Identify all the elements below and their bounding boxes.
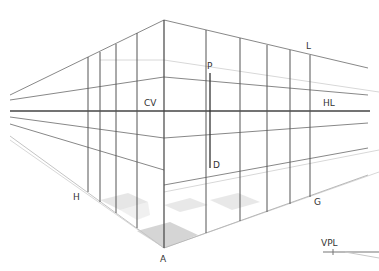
- label-h: H: [73, 193, 80, 202]
- label-cv: CV: [144, 99, 156, 108]
- right-converging-lines: [164, 20, 368, 248]
- label-hl: HL: [323, 99, 335, 108]
- label-d: D: [213, 161, 220, 170]
- label-a: A: [160, 255, 166, 264]
- label-l: L: [306, 42, 311, 51]
- floor-tile-mid: [164, 198, 208, 212]
- vpl-marker: [323, 249, 379, 258]
- label-g: G: [314, 198, 321, 207]
- faint-construction-lines: [10, 60, 379, 248]
- label-p: P: [207, 62, 212, 71]
- perspective-diagram: CV HL L P D H G A VPL: [0, 0, 379, 271]
- perspective-drawing: [0, 0, 379, 271]
- label-vpl: VPL: [321, 239, 338, 248]
- floor-tile-right: [210, 193, 260, 210]
